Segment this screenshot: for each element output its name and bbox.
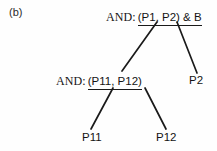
edge-middle-to-p12: [145, 88, 166, 129]
middle-node-prefix: AND:: [56, 74, 86, 88]
tree-leaf-p2: P2: [189, 75, 203, 87]
tree-node-middle: AND:(P11, P12): [56, 72, 142, 88]
tree-leaf-p12: P12: [156, 132, 176, 144]
root-node-payload: (P1, P2) & B: [138, 11, 202, 26]
figure-panel: (b) AND:(P1, P2) & B AND:(P11, P12) P2 P…: [0, 0, 217, 151]
root-node-prefix: AND:: [106, 10, 136, 24]
edge-root-to-p2: [177, 22, 197, 73]
middle-node-payload: (P11, P12): [88, 75, 142, 90]
edge-middle-to-p11: [91, 88, 113, 129]
figure-caption-label: (b): [9, 7, 22, 18]
tree-node-root: AND:(P1, P2) & B: [106, 8, 202, 24]
edge-root-to-middle: [122, 22, 157, 71]
tree-leaf-p11: P11: [82, 132, 102, 144]
